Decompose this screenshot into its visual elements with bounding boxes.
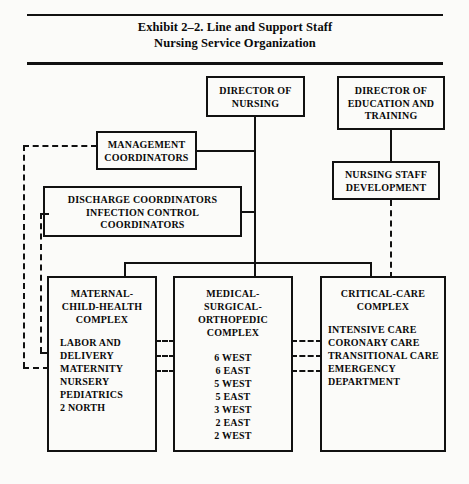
node-nursing-staff-development-label: NURSING STAFF DEVELOPMENT: [334, 169, 438, 194]
title-rule-bottom: [27, 62, 443, 65]
node-nursing-staff-development[interactable]: NURSING STAFF DEVELOPMENT: [332, 161, 440, 200]
node-medical-surgical-orthopedic-complex-title: MEDICAL- SURGICAL- ORTHOPEDIC COMPLEX: [175, 287, 291, 339]
connector-complex-bus: [124, 262, 372, 264]
node-discharge-coordinators-label: DISCHARGE COORDINATORS INFECTION CONTROL…: [45, 194, 240, 232]
title-line-2: Nursing Service Organization: [27, 35, 443, 51]
dashed-mgmt-left-stub: [23, 145, 97, 147]
node-medical-surgical-orthopedic-complex[interactable]: MEDICAL- SURGICAL- ORTHOPEDIC COMPLEX 6 …: [173, 276, 293, 452]
connector-mgmt-to-trunk: [196, 150, 256, 152]
dashed-maternal-medical-3: [155, 370, 175, 372]
connector-mgmt-riser: [254, 150, 256, 152]
node-maternal-child-health-complex-units: LABOR AND DELIVERY MATERNITY NURSERY PED…: [49, 336, 155, 414]
dashed-medical-critical-3: [291, 370, 322, 372]
dashed-outer-into-maternal: [23, 367, 49, 369]
dashed-inner-spine: [40, 213, 42, 353]
dashed-nsd-to-critical: [390, 200, 392, 278]
node-director-of-education-and-training-label: DIRECTOR OF EDUCATION AND TRAINING: [339, 85, 443, 123]
node-management-coordinators[interactable]: MANAGEMENT COORDINATORS: [96, 131, 197, 170]
node-critical-care-complex-title: CRITICAL-CARE COMPLEX: [322, 287, 444, 313]
node-director-of-nursing[interactable]: DIRECTOR OF NURSING: [206, 76, 305, 117]
node-maternal-child-health-complex[interactable]: MATERNAL- CHILD-HEALTH COMPLEX LABOR AND…: [47, 276, 157, 452]
title-rule-top: [27, 14, 443, 16]
node-management-coordinators-label: MANAGEMENT COORDINATORS: [98, 139, 195, 164]
node-director-of-nursing-label: DIRECTOR OF NURSING: [208, 85, 303, 110]
dashed-outer-spine: [23, 145, 25, 368]
exhibit-figure: Exhibit 2–2. Line and Support Staff Nurs…: [0, 0, 469, 484]
page-title: Exhibit 2–2. Line and Support Staff Nurs…: [27, 19, 443, 51]
node-discharge-and-infection-control-coordinators[interactable]: DISCHARGE COORDINATORS INFECTION CONTROL…: [43, 186, 242, 237]
dashed-medical-critical-2: [291, 355, 322, 357]
connector-dn-trunk: [254, 117, 256, 263]
node-critical-care-complex-units: INTENSIVE CARE CORONARY CARE TRANSITIONA…: [322, 323, 444, 388]
node-critical-care-complex[interactable]: CRITICAL-CARE COMPLEX INTENSIVE CARE COR…: [320, 276, 446, 452]
connector-education-to-nsd: [390, 130, 392, 163]
dashed-maternal-medical-2: [155, 355, 175, 357]
dashed-maternal-medical-1: [155, 340, 175, 342]
title-line-1: Exhibit 2–2. Line and Support Staff: [27, 19, 443, 35]
dashed-medical-critical-1: [291, 340, 322, 342]
node-director-of-education-and-training[interactable]: DIRECTOR OF EDUCATION AND TRAINING: [337, 76, 445, 130]
node-maternal-child-health-complex-title: MATERNAL- CHILD-HEALTH COMPLEX: [49, 287, 155, 326]
node-medical-surgical-orthopedic-complex-units: 6 WEST 6 EAST 5 WEST 5 EAST 3 WEST 2 EAS…: [175, 351, 291, 442]
connector-discharge-to-trunk: [241, 211, 256, 213]
